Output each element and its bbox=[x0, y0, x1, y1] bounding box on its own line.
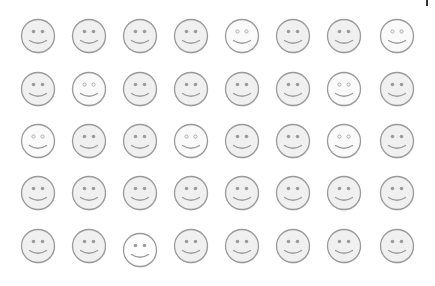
smiley-face-icon bbox=[173, 71, 209, 107]
smiley-face-icon bbox=[379, 71, 415, 107]
smiley-face-icon bbox=[173, 123, 209, 159]
smiley-face-icon bbox=[275, 18, 311, 54]
smiley-face-icon bbox=[71, 71, 107, 107]
smiley-face-icon bbox=[20, 228, 56, 264]
smiley-face-icon bbox=[122, 232, 158, 268]
smiley-face-icon bbox=[20, 71, 56, 107]
smiley-face-icon bbox=[326, 71, 362, 107]
smiley-face-icon bbox=[275, 71, 311, 107]
smiley-face-icon bbox=[379, 18, 415, 54]
smiley-face-icon bbox=[71, 123, 107, 159]
smiley-face-icon bbox=[326, 18, 362, 54]
smiley-face-icon bbox=[224, 228, 260, 264]
smiley-face-icon bbox=[71, 228, 107, 264]
smiley-face-icon bbox=[122, 71, 158, 107]
smiley-face-icon bbox=[224, 18, 260, 54]
smiley-face-icon bbox=[275, 228, 311, 264]
smiley-face-icon bbox=[122, 175, 158, 211]
smiley-face-icon bbox=[173, 18, 209, 54]
smiley-face-icon bbox=[122, 18, 158, 54]
smiley-face-icon bbox=[326, 175, 362, 211]
smiley-face-icon bbox=[224, 71, 260, 107]
smiley-face-icon bbox=[20, 123, 56, 159]
smiley-face-icon bbox=[20, 175, 56, 211]
smiley-face-icon bbox=[173, 228, 209, 264]
text-caret-icon bbox=[426, 0, 428, 6]
smiley-face-icon bbox=[224, 123, 260, 159]
smiley-face-icon bbox=[173, 175, 209, 211]
smiley-face-icon bbox=[275, 175, 311, 211]
smiley-face-icon bbox=[71, 175, 107, 211]
smiley-face-icon bbox=[224, 175, 260, 211]
smiley-grid bbox=[0, 0, 435, 286]
smiley-face-icon bbox=[71, 18, 107, 54]
smiley-face-icon bbox=[122, 123, 158, 159]
smiley-face-icon bbox=[275, 123, 311, 159]
smiley-face-icon bbox=[326, 228, 362, 264]
smiley-face-icon bbox=[326, 123, 362, 159]
smiley-face-icon bbox=[379, 123, 415, 159]
smiley-face-icon bbox=[379, 228, 415, 264]
smiley-face-icon bbox=[379, 175, 415, 211]
smiley-face-icon bbox=[20, 18, 56, 54]
